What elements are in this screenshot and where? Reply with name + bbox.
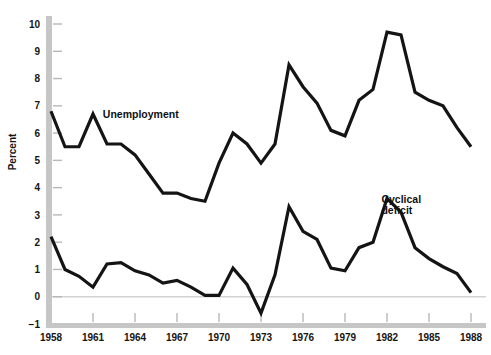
line-chart-svg: −1012345678910 1958196119641967197019731… <box>0 0 491 355</box>
x-tick-label: 1988 <box>460 332 483 343</box>
x-axis-spine <box>46 323 486 328</box>
y-tick-label: 3 <box>34 210 40 221</box>
x-tick-label: 1958 <box>40 332 63 343</box>
y-tick-label: 0 <box>34 291 40 302</box>
x-tick-label: 1973 <box>250 332 273 343</box>
y-tick-label: 8 <box>34 73 40 84</box>
series-label-cyclical-deficit: deficit <box>381 204 412 216</box>
y-tick-label: 10 <box>29 19 41 30</box>
y-tick-label: 4 <box>34 182 40 193</box>
x-tick-label: 1979 <box>334 332 357 343</box>
x-tick-label: 1961 <box>82 332 105 343</box>
x-tick-label: 1967 <box>166 332 189 343</box>
y-axis-spine <box>46 16 52 324</box>
chart-figure: −1012345678910 1958196119641967197019731… <box>0 0 491 355</box>
x-tick-label: 1976 <box>292 332 315 343</box>
y-axis-title-layer: Percent <box>7 133 18 170</box>
y-tick-label: 1 <box>34 264 40 275</box>
x-tick-label: 1982 <box>376 332 399 343</box>
y-tick-label: 2 <box>34 237 40 248</box>
y-tick-label: 7 <box>34 100 40 111</box>
y-axis-title: Percent <box>7 133 18 170</box>
x-tick-label: 1970 <box>208 332 231 343</box>
y-tick-label: −1 <box>29 319 41 330</box>
x-tick-label: 1985 <box>418 332 441 343</box>
y-tick-layer: −1012345678910 <box>29 19 62 330</box>
x-tick-label: 1964 <box>124 332 147 343</box>
series-label-unemployment: Unemployment <box>103 108 179 120</box>
y-tick-label: 5 <box>34 155 40 166</box>
axis-layer <box>46 16 486 328</box>
y-tick-label: 6 <box>34 128 40 139</box>
y-tick-label: 9 <box>34 46 40 57</box>
series-layer <box>51 32 471 313</box>
series-label-cyclical-deficit: Cyclical <box>381 193 421 205</box>
